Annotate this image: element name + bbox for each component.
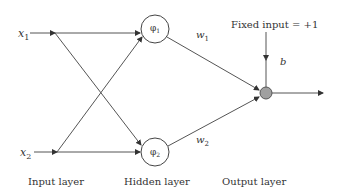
diagram-svg: x1 x2 φ1 φ2 w1 w2 Fixed input = +1 b Inp…	[0, 0, 338, 194]
output-node	[260, 87, 272, 99]
input-x1-label: x1	[18, 27, 29, 42]
edge-phi2-to-output	[168, 97, 259, 146]
weight-w2-label: w2	[196, 134, 209, 148]
rbf-network-diagram: x1 x2 φ1 φ2 w1 w2 Fixed input = +1 b Inp…	[0, 0, 338, 194]
input-layer-label: Input layer	[28, 176, 84, 187]
weight-w1-label: w1	[196, 29, 209, 43]
edge-x1-to-phi2	[55, 33, 141, 145]
input-x2-label: x2	[20, 146, 31, 161]
output-layer-label: Output layer	[222, 176, 286, 187]
edge-x2-to-phi1	[57, 37, 142, 152]
hidden-layer-label: Hidden layer	[124, 176, 190, 187]
fixed-input-label: Fixed input = +1	[231, 19, 318, 30]
edge-phi1-to-output	[167, 37, 259, 90]
bias-b-label: b	[280, 56, 286, 67]
